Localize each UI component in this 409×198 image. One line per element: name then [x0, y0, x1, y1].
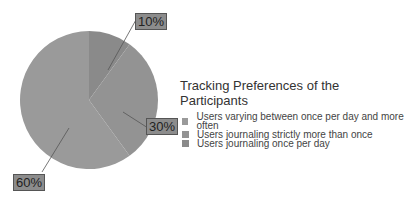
label-60-percent: 60% — [13, 174, 45, 191]
label-10-percent: 10% — [135, 13, 167, 30]
legend-item: Users varying between once per day and m… — [182, 112, 409, 130]
legend-label: Users journaling once per day — [197, 139, 330, 148]
legend-title: Tracking Preferences of the Participants — [180, 78, 409, 108]
legend-swatch-icon — [182, 140, 189, 147]
legend-label: Users varying between once per day and m… — [196, 112, 409, 130]
label-30-percent: 30% — [146, 118, 178, 135]
legend: Tracking Preferences of the Participants… — [180, 78, 409, 148]
legend-item: Users journaling once per day — [182, 139, 409, 148]
legend-swatch-icon — [182, 131, 189, 138]
legend-swatch-icon — [182, 118, 188, 125]
